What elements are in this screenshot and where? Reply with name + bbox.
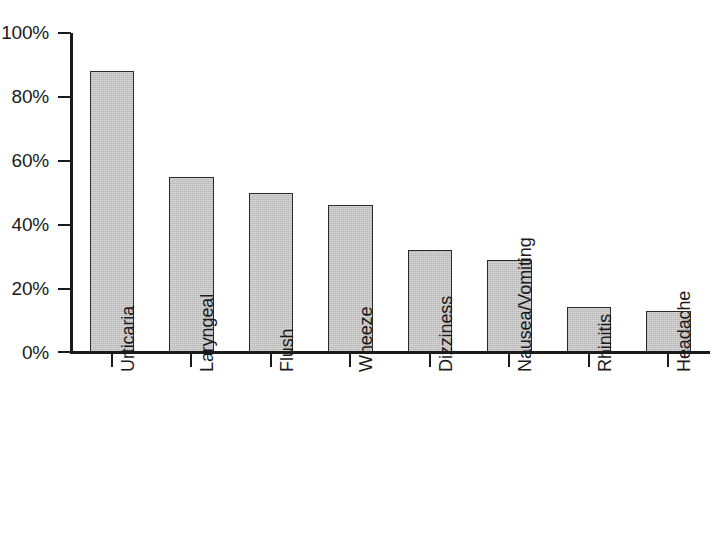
x-axis-tick [349, 354, 351, 367]
x-axis-tick [508, 354, 510, 367]
x-axis-label: Dizziness [437, 296, 455, 372]
x-axis-label: Wheeze [357, 307, 375, 372]
x-axis-label: Laryngeal [198, 294, 216, 372]
x-axis-tick [190, 354, 192, 367]
x-axis-tick [111, 354, 113, 367]
bar-chart: 100% 80% 60% 40% 20% 0% UrticariaLarynge… [0, 0, 725, 538]
x-axis-line [70, 351, 710, 354]
x-axis-tick [667, 354, 669, 367]
x-axis-label: Headache [675, 291, 693, 372]
x-axis-tick [588, 354, 590, 367]
x-axis-label: Rhinitis [596, 314, 614, 372]
x-axis-tick [429, 354, 431, 367]
plot-area: UrticariaLaryngealFlushWheezeDizzinessNa… [0, 0, 725, 538]
x-axis-tick [270, 354, 272, 367]
x-axis-label: Urticaria [119, 306, 137, 372]
